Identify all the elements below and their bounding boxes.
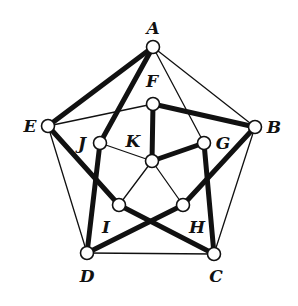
- node-h: [177, 199, 190, 212]
- edge-a-j: [100, 47, 153, 143]
- edge-j-d: [87, 143, 100, 253]
- node-label-b: B: [266, 117, 281, 137]
- node-c: [208, 248, 221, 261]
- node-d: [81, 247, 94, 260]
- edge-d-c: [87, 253, 214, 254]
- node-label-e: E: [23, 116, 38, 136]
- edge-f-k: [152, 104, 153, 161]
- edge-a-g: [153, 47, 204, 143]
- node-label-h: H: [188, 217, 206, 237]
- node-label-i: I: [101, 217, 111, 237]
- edge-k-g: [152, 143, 204, 161]
- node-label-k: K: [125, 131, 142, 151]
- node-j: [94, 137, 107, 150]
- node-b: [249, 121, 262, 134]
- node-label-f: F: [145, 71, 160, 91]
- node-label-d: D: [79, 266, 95, 286]
- node-i: [113, 199, 126, 212]
- node-a: [147, 41, 160, 54]
- edge-a-e: [48, 47, 153, 126]
- node-label-j: J: [75, 133, 87, 153]
- node-e: [42, 120, 55, 133]
- graph-diagram: ABCDEFGHIJK: [0, 0, 298, 306]
- node-g: [198, 137, 211, 150]
- edge-g-c: [204, 143, 214, 254]
- edge-k-i: [119, 161, 152, 205]
- node-label-a: A: [144, 18, 159, 38]
- node-f: [147, 98, 160, 111]
- node-label-c: C: [209, 266, 223, 286]
- node-k: [146, 155, 159, 168]
- edge-k-h: [152, 161, 183, 205]
- node-label-g: G: [216, 133, 231, 153]
